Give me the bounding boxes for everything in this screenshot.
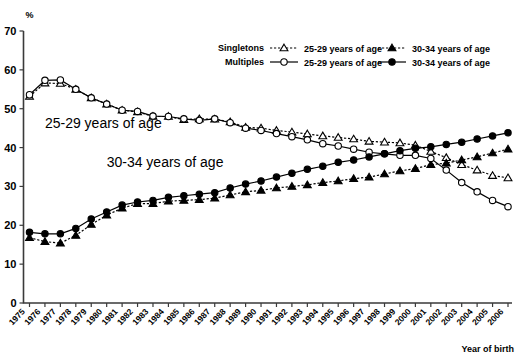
chart-container: 010203040506070%197519761977197819791980… xyxy=(0,0,526,360)
data-point xyxy=(181,116,187,122)
series-open-circle xyxy=(26,77,511,210)
data-point xyxy=(350,175,358,182)
data-point xyxy=(119,202,125,208)
data-point xyxy=(412,145,418,151)
data-point xyxy=(334,134,342,141)
x-tick-label: 1998 xyxy=(362,306,382,327)
data-point xyxy=(489,197,495,203)
data-point xyxy=(381,170,389,177)
x-axis-ticks: 1975197619771978197919801981198219831984… xyxy=(7,303,508,327)
data-point xyxy=(474,189,480,195)
data-point xyxy=(165,194,171,200)
data-point xyxy=(73,225,79,231)
data-point xyxy=(103,209,109,215)
data-point xyxy=(366,154,372,160)
data-point xyxy=(26,229,32,235)
data-point xyxy=(350,157,356,163)
x-tick-label: 1976 xyxy=(22,306,42,327)
x-tick-label: 1979 xyxy=(68,306,88,327)
data-point xyxy=(242,181,248,187)
svg-text:30: 30 xyxy=(4,180,16,192)
data-point xyxy=(458,139,464,145)
legend-item-label: 25-29 years of age xyxy=(304,58,382,68)
x-tick-label: 1989 xyxy=(223,306,243,327)
x-tick-label: 1975 xyxy=(7,306,27,327)
legend-item-label: 30-34 years of age xyxy=(412,58,490,68)
svg-text:60: 60 xyxy=(4,64,16,76)
x-tick-label: 1993 xyxy=(285,306,305,327)
data-point xyxy=(458,179,464,185)
data-point xyxy=(489,133,495,139)
data-point xyxy=(227,120,233,126)
y-axis-ticks: 010203040506070 xyxy=(4,25,23,309)
annotation-label: 25-29 years of age xyxy=(45,115,162,131)
data-point xyxy=(381,151,387,157)
data-point xyxy=(365,138,373,145)
data-point xyxy=(72,232,80,239)
data-point xyxy=(428,155,434,161)
data-point xyxy=(134,108,140,114)
data-point xyxy=(226,191,234,198)
data-point xyxy=(443,141,449,147)
x-tick-label: 1982 xyxy=(115,306,135,327)
data-point xyxy=(335,159,341,165)
data-point xyxy=(26,92,32,98)
svg-text:20: 20 xyxy=(4,219,16,231)
x-tick-label: 2001 xyxy=(408,306,428,327)
svg-text:10: 10 xyxy=(4,258,16,270)
data-point xyxy=(389,59,395,65)
data-point xyxy=(57,231,63,237)
legend-group-label: Multiples xyxy=(225,57,264,67)
x-tick-label: 2003 xyxy=(439,306,459,327)
x-tick-label: 2005 xyxy=(470,306,490,327)
data-point xyxy=(212,116,218,122)
data-point xyxy=(504,145,512,152)
x-tick-label: 1999 xyxy=(377,306,397,327)
data-point xyxy=(281,59,287,65)
data-point xyxy=(289,170,295,176)
x-tick-label: 2002 xyxy=(424,306,444,327)
data-point xyxy=(304,166,310,172)
plot-annotations: 25-29 years of age30-34 years of age xyxy=(45,115,224,170)
data-point xyxy=(273,130,279,136)
data-point xyxy=(505,203,511,209)
x-tick-label: 1991 xyxy=(254,306,274,327)
x-tick-label: 1983 xyxy=(130,306,150,327)
x-tick-label: 2000 xyxy=(393,306,413,327)
data-point xyxy=(88,95,94,101)
data-point xyxy=(365,173,373,180)
data-point xyxy=(42,231,48,237)
data-point xyxy=(134,199,140,205)
legend-group-label: Singletons xyxy=(218,43,264,53)
x-tick-label: 1985 xyxy=(161,306,181,327)
data-point xyxy=(212,189,218,195)
data-point xyxy=(196,191,202,197)
data-point xyxy=(42,77,48,83)
x-tick-label: 1987 xyxy=(192,306,212,327)
data-point xyxy=(320,140,326,146)
data-point xyxy=(165,113,171,119)
x-tick-label: 1997 xyxy=(346,306,366,327)
data-point xyxy=(73,86,79,92)
data-point xyxy=(412,152,418,158)
x-tick-label: 1978 xyxy=(53,306,73,327)
x-tick-label: 1977 xyxy=(38,306,58,327)
x-tick-label: 1995 xyxy=(315,306,335,327)
data-point xyxy=(334,177,342,184)
x-tick-label: 1994 xyxy=(300,306,320,327)
data-point xyxy=(196,117,202,123)
x-tick-label: 1980 xyxy=(84,306,104,327)
x-tick-label: 2004 xyxy=(454,306,474,327)
data-point xyxy=(103,101,109,107)
data-point xyxy=(181,193,187,199)
x-tick-label: 1990 xyxy=(238,306,258,327)
x-tick-label: 1992 xyxy=(269,306,289,327)
svg-text:40: 40 xyxy=(4,142,16,154)
data-point xyxy=(119,107,125,113)
data-point xyxy=(319,132,327,139)
data-point xyxy=(505,130,511,136)
annotation-label: 30-34 years of age xyxy=(107,154,224,170)
data-point xyxy=(504,174,512,181)
data-point xyxy=(397,147,403,153)
data-point xyxy=(242,188,250,195)
